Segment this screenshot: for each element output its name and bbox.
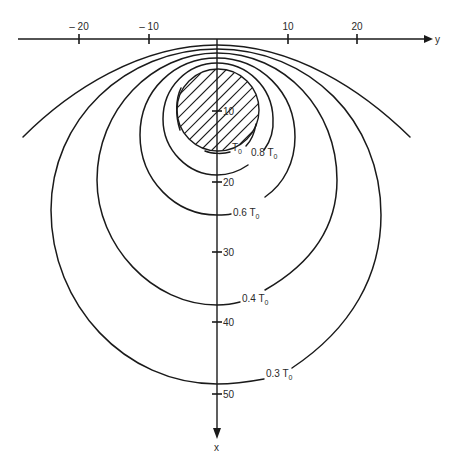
label-0-8: 0.8 T0 [251,147,278,160]
hatch-line [38,50,158,170]
y-axis-tick-label: – 10 [139,21,159,32]
y-axis-name: y [435,34,440,45]
y-axis-tick-label: – 20 [69,21,89,32]
x-axis-tick-label: 30 [223,247,235,258]
contour-0-8 [163,63,273,175]
x-axis-tick-label: 40 [223,317,235,328]
x-axis-tick-label: 10 [223,106,235,117]
axes: y– 20– 101020x1020304050 [18,21,440,453]
y-axis-arrow-icon [424,35,433,43]
label-0-4: 0.4 T0 [242,293,269,306]
hatch-line [49,50,169,170]
contour-figure: y– 20– 101020x1020304050 T00.8 T00.6 T00… [0,0,449,461]
y-axis-tick-label: 20 [351,21,363,32]
y-axis-tick-label: 10 [282,21,294,32]
hatched-source-region [38,50,389,170]
x-axis-arrow-icon [213,428,221,439]
x-axis-tick-label: 20 [223,177,235,188]
hatch-line [225,50,345,170]
x-axis-tick-label: 50 [223,389,235,400]
label-0-3: 0.3 T0 [266,368,293,381]
source-circle [177,69,259,151]
label-0-6: 0.6 T0 [233,207,260,220]
hatch-line [269,50,389,170]
contour-plot: y– 20– 101020x1020304050 T00.8 T00.6 T00… [0,0,449,461]
x-axis-name: x [214,442,219,453]
